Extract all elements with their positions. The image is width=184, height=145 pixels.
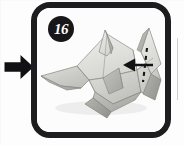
page-edge-artifact xyxy=(177,38,178,100)
instruction-step-page: 16 xyxy=(0,0,184,145)
arrow-left-icon xyxy=(123,59,153,72)
step-number-badge: 16 xyxy=(48,16,74,42)
panel-background: 16 xyxy=(37,8,165,132)
step-frame: 16 xyxy=(31,2,171,138)
step-number-label: 16 xyxy=(54,21,68,36)
